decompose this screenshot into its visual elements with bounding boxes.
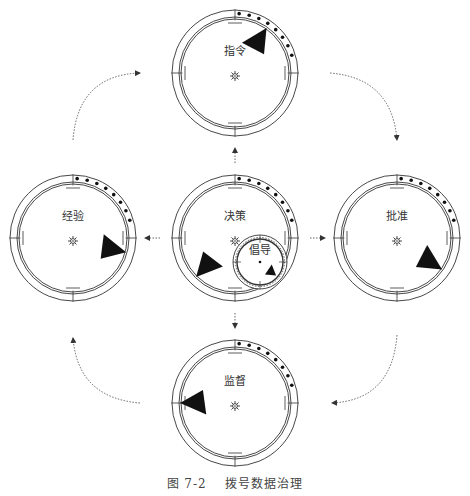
dial-supervision: 监督: [171, 339, 298, 466]
dial-label-instruction: 指令: [224, 44, 246, 58]
sun-icon: [392, 236, 402, 246]
sub-dial-label: 倡导: [249, 244, 271, 257]
dial-instruction: 指令: [171, 9, 298, 136]
dial-label-decision: 决策: [224, 209, 246, 223]
figure-number: 图 7-2: [167, 474, 207, 491]
sun-icon: [230, 71, 240, 81]
cycle-arrow-instruction-to-approval: [330, 73, 397, 140]
dials: 指令经验决策批准监督: [9, 9, 460, 466]
figure-caption: 图 7-2 拨号数据治理: [0, 474, 470, 491]
sun-icon: [68, 236, 78, 246]
dial-approval: 批准: [333, 174, 460, 301]
cycle-arrow-approval-to-supervision: [332, 335, 397, 403]
pointer-icon: [101, 234, 126, 259]
sun-icon: [230, 236, 240, 246]
pointer-icon: [416, 245, 442, 270]
figure-title: 拨号数据治理: [225, 474, 303, 491]
pointer-icon: [180, 390, 206, 415]
sub-dial-center-dot: [259, 261, 262, 264]
dial-label-experience: 经验: [62, 209, 84, 223]
sub-dial-advocacy: 倡导: [233, 235, 287, 289]
dial-governance-diagram: 指令经验决策批准监督 倡导: [0, 0, 470, 496]
dial-decision: 决策: [171, 174, 298, 301]
dial-label-approval: 批准: [386, 209, 408, 223]
cycle-arrow-supervision-to-experience: [73, 338, 140, 403]
dial-label-supervision: 监督: [224, 374, 246, 388]
pointer-icon: [196, 252, 223, 277]
cycle-arrow-experience-to-instruction: [73, 73, 140, 140]
sun-icon: [230, 401, 240, 411]
dial-experience: 经验: [9, 174, 136, 301]
